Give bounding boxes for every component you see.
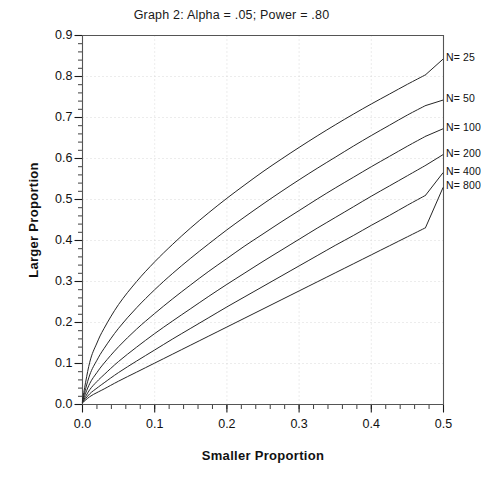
series-label-200: N= 200 (446, 147, 481, 159)
curve-100 (83, 136, 426, 401)
minor-tick-marks (78, 36, 444, 410)
y-tick-label: 0.1 (37, 356, 73, 370)
y-tick-label: 0.2 (37, 315, 73, 329)
x-tick-label: 0.2 (207, 417, 247, 431)
series-label-400: N= 400 (446, 165, 481, 177)
curve-800 (83, 228, 426, 403)
series-label-25: N= 25 (446, 51, 475, 63)
y-tick-label: 0.5 (37, 192, 73, 206)
data-curves (83, 75, 426, 403)
series-label-800: N= 800 (446, 179, 481, 191)
major-tick-marks (75, 36, 444, 413)
series-label-50: N= 50 (446, 92, 475, 104)
series-label-100: N= 100 (446, 121, 481, 133)
y-tick-label: 0.0 (37, 397, 73, 411)
y-tick-label: 0.9 (37, 28, 73, 42)
curve-25 (83, 75, 426, 400)
y-tick-label: 0.7 (37, 110, 73, 124)
y-tick-label: 0.6 (37, 151, 73, 165)
x-tick-label: 0.1 (135, 417, 175, 431)
gridlines (83, 36, 444, 405)
x-tick-label: 0.0 (63, 417, 103, 431)
x-tick-label: 0.4 (351, 417, 391, 431)
y-tick-label: 0.4 (37, 233, 73, 247)
x-tick-label: 0.5 (424, 417, 464, 431)
curve-200 (83, 165, 426, 402)
y-tick-label: 0.8 (37, 69, 73, 83)
label-leader-lines (425, 59, 443, 228)
curve-400 (83, 195, 426, 402)
y-tick-label: 0.3 (37, 274, 73, 288)
axis-frame (83, 36, 444, 405)
x-tick-label: 0.3 (279, 417, 319, 431)
